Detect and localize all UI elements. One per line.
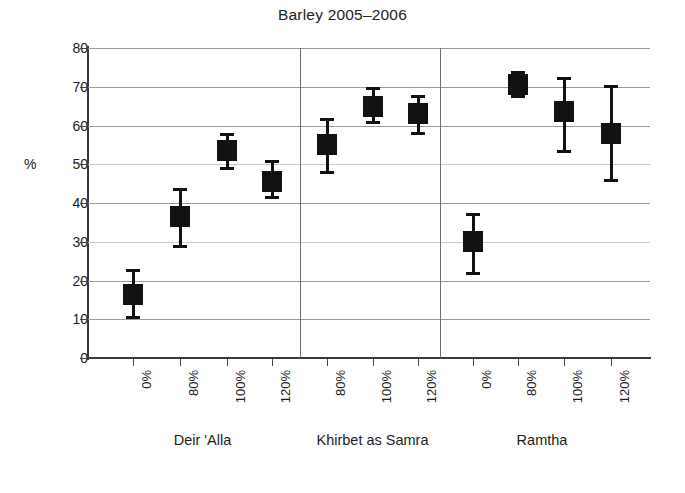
x-tick-label: 100% — [570, 370, 585, 403]
data-marker — [363, 96, 383, 117]
error-bar-cap-upper — [557, 77, 571, 80]
x-tick-label: 80% — [333, 370, 348, 396]
x-tick-mark — [327, 359, 328, 366]
x-tick-label: 0% — [139, 370, 154, 389]
gridline — [88, 126, 650, 127]
x-tick-mark — [272, 359, 273, 366]
error-bar-cap-upper — [366, 87, 380, 90]
y-axis-label: % — [24, 156, 36, 172]
chart-title: Barley 2005–2006 — [0, 6, 685, 24]
x-tick-label: 100% — [379, 370, 394, 403]
error-bar-cap-upper — [265, 160, 279, 163]
data-marker — [123, 284, 143, 305]
error-bar-cap-upper — [173, 188, 187, 191]
group-label: Deir 'Alla — [174, 432, 232, 448]
error-bar-cap-upper — [604, 85, 618, 88]
error-bar-cap-lower — [220, 167, 234, 170]
error-bar-cap-upper — [126, 269, 140, 272]
y-tick-mark — [80, 319, 87, 320]
data-marker — [463, 231, 483, 252]
group-separator — [300, 48, 301, 358]
y-tick-mark — [80, 164, 87, 165]
y-tick-mark — [80, 87, 87, 88]
error-bar-cap-upper — [466, 213, 480, 216]
error-bar-cap-lower — [411, 132, 425, 135]
data-marker — [408, 103, 428, 124]
x-tick-label: 120% — [424, 370, 439, 403]
error-bar-cap-lower — [126, 316, 140, 319]
group-label: Khirbet as Samra — [316, 432, 428, 448]
x-tick-label: 100% — [233, 370, 248, 403]
error-bar-cap-lower — [265, 196, 279, 199]
error-bar-cap-lower — [466, 272, 480, 275]
x-tick-label: 80% — [524, 370, 539, 396]
x-tick-mark — [473, 359, 474, 366]
x-tick-label: 120% — [278, 370, 293, 403]
error-bar-cap-lower — [173, 245, 187, 248]
data-marker — [508, 74, 528, 95]
data-marker — [262, 171, 282, 192]
error-bar-cap-lower — [511, 95, 525, 98]
x-tick-mark — [373, 359, 374, 366]
data-marker — [170, 206, 190, 227]
data-marker — [554, 101, 574, 122]
data-marker — [601, 123, 621, 144]
x-tick-mark — [227, 359, 228, 366]
data-marker — [317, 134, 337, 155]
y-tick-mark — [80, 281, 87, 282]
group-label: Ramtha — [517, 432, 568, 448]
x-tick-mark — [518, 359, 519, 366]
gridline — [88, 48, 650, 49]
x-tick-mark — [564, 359, 565, 366]
x-tick-mark — [133, 359, 134, 366]
error-bar-cap-lower — [320, 171, 334, 174]
error-bar-cap-upper — [320, 118, 334, 121]
y-tick-mark — [80, 126, 87, 127]
y-tick-mark — [80, 242, 87, 243]
x-tick-label: 80% — [186, 370, 201, 396]
error-bar-cap-lower — [557, 150, 571, 153]
gridline — [88, 319, 650, 320]
y-tick-mark — [80, 48, 87, 49]
error-bar-cap-lower — [366, 121, 380, 124]
x-tick-mark — [611, 359, 612, 366]
gridline — [88, 242, 650, 243]
chart-figure: Barley 2005–2006 01020304050607080% 0%80… — [0, 0, 685, 493]
data-marker — [217, 140, 237, 161]
plot-area — [88, 48, 650, 358]
group-separator — [440, 48, 441, 358]
error-bar-cap-lower — [604, 179, 618, 182]
x-tick-mark — [180, 359, 181, 366]
gridline — [88, 281, 650, 282]
y-axis-ticks: 01020304050607080% — [0, 0, 88, 493]
x-tick-label: 0% — [479, 370, 494, 389]
gridline — [88, 203, 650, 204]
x-tick-label: 120% — [617, 370, 632, 403]
error-bar-cap-upper — [411, 95, 425, 98]
gridline — [88, 164, 650, 165]
error-bar-cap-upper — [220, 133, 234, 136]
y-tick-mark — [80, 358, 87, 359]
y-tick-mark — [80, 203, 87, 204]
x-tick-mark — [418, 359, 419, 366]
